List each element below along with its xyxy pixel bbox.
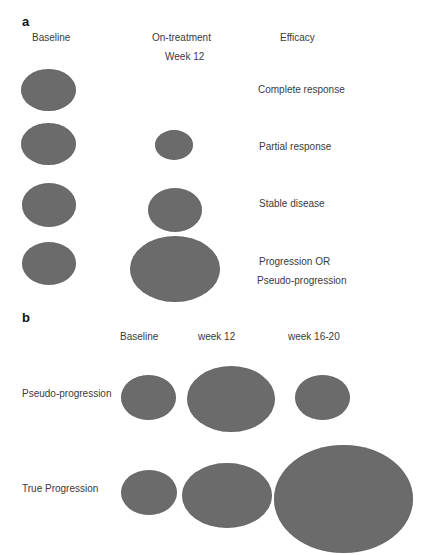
panel-b-header-week12: week 12 xyxy=(198,331,235,343)
outcome-complete-response: Complete response xyxy=(258,84,345,96)
lesion-a-pd-week12 xyxy=(130,236,220,302)
panel-b-header-week16-20: week 16-20 xyxy=(288,331,340,343)
row-label-pseudo-progression: Pseudo-progression xyxy=(22,388,112,400)
lesion-a-pr-baseline xyxy=(21,123,76,165)
lesion-b-true-week16-20 xyxy=(274,445,413,553)
row-label-true-progression: True Progression xyxy=(22,483,98,495)
panel-a-header-on-treatment: On-treatment xyxy=(152,32,211,44)
lesion-a-cr-baseline xyxy=(21,69,76,111)
lesion-a-sd-week12 xyxy=(148,188,202,232)
lesion-b-pseudo-week12 xyxy=(187,366,275,432)
lesion-a-sd-baseline xyxy=(22,183,76,227)
panel-a-header-baseline: Baseline xyxy=(32,32,70,44)
lesion-b-true-week12 xyxy=(182,463,272,528)
outcome-partial-response: Partial response xyxy=(259,141,331,153)
panel-b-header-baseline: Baseline xyxy=(120,331,158,343)
panel-a-label: a xyxy=(22,15,29,29)
panel-a-header-week12: Week 12 xyxy=(165,51,204,63)
panel-a-header-efficacy: Efficacy xyxy=(280,32,315,44)
lesion-a-pr-week12 xyxy=(155,130,193,160)
outcome-progression-or: Progression OR xyxy=(259,256,330,268)
lesion-b-true-baseline xyxy=(121,470,177,515)
lesion-a-pd-baseline xyxy=(22,242,76,285)
lesion-b-pseudo-baseline xyxy=(121,375,176,420)
panel-b-label: b xyxy=(22,311,30,325)
outcome-pseudo-progression: Pseudo-progression xyxy=(257,275,347,287)
lesion-b-pseudo-week16-20 xyxy=(295,375,350,420)
outcome-stable-disease: Stable disease xyxy=(259,198,325,210)
